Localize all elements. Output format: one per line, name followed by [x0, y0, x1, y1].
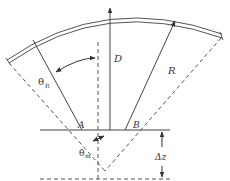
- svg-text:θ: θ: [38, 76, 44, 87]
- label-R: R: [167, 65, 176, 76]
- label-B: B: [132, 120, 140, 130]
- label-theta-R: θ R: [38, 76, 50, 89]
- theta-R-angle-arrow: [56, 58, 95, 72]
- geometry-diagram: D R A B θ R θ m Δz: [0, 0, 230, 181]
- svg-text:θ: θ: [79, 148, 84, 158]
- label-theta-m: θ m: [79, 148, 91, 159]
- label-D: D: [113, 53, 122, 64]
- label-A: A: [77, 120, 85, 130]
- label-delta-z: Δz: [154, 152, 166, 162]
- svg-text:m: m: [85, 152, 91, 159]
- svg-text:R: R: [45, 82, 50, 89]
